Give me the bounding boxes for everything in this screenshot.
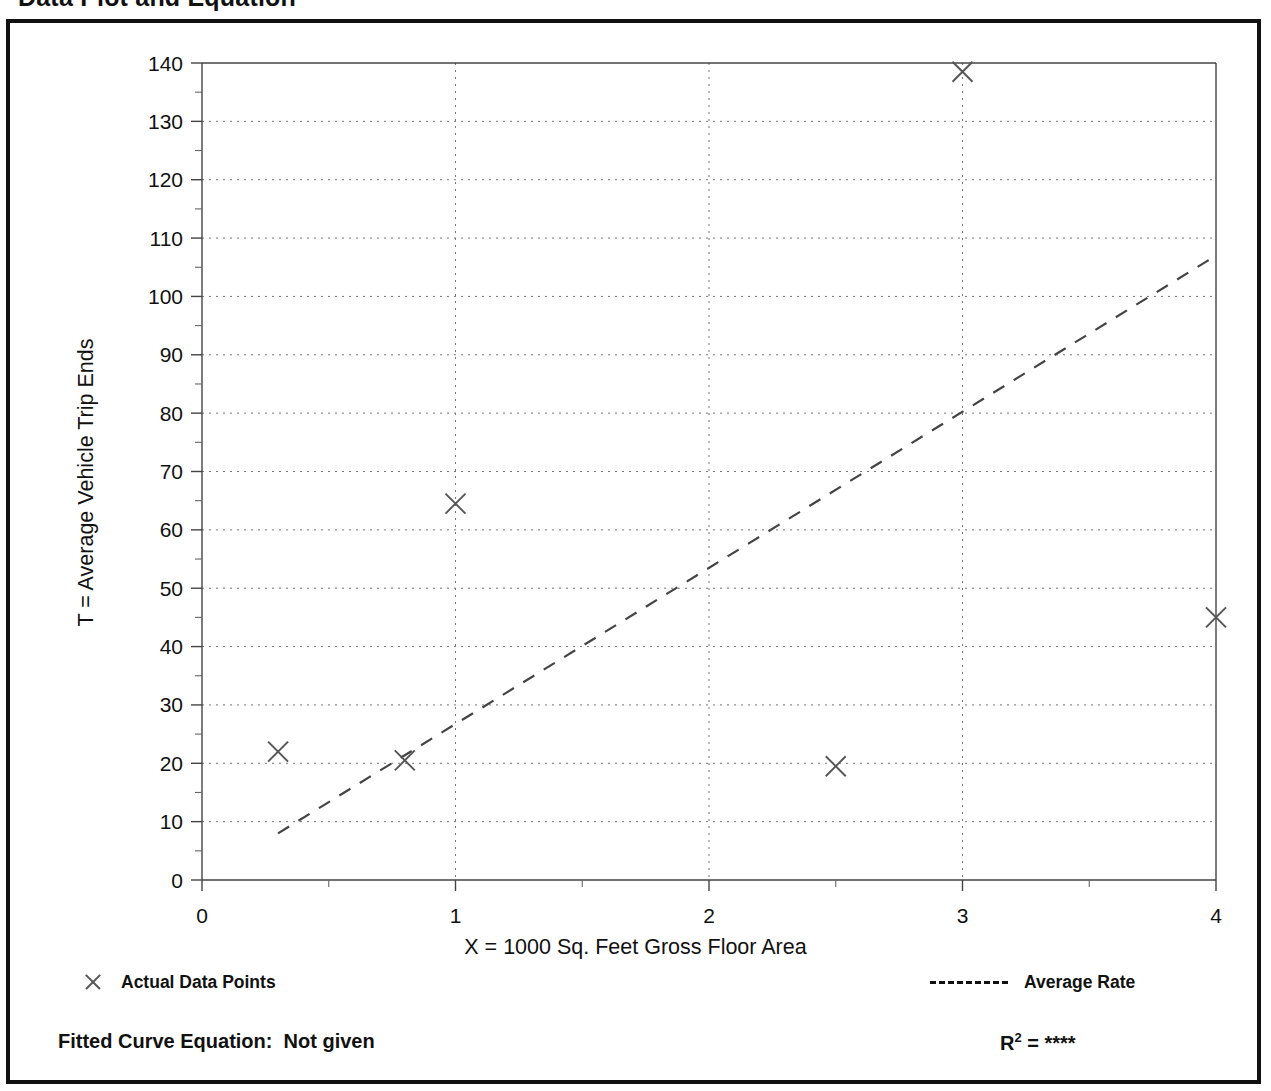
r-squared-value: R2 = **** <box>1000 1030 1076 1055</box>
fitted-curve-equation: Fitted Curve Equation: Not given <box>58 1030 375 1053</box>
x-marker-icon <box>83 972 103 992</box>
r-squared-equals: = <box>1027 1032 1039 1054</box>
legend-label-average-rate: Average Rate <box>1024 972 1135 993</box>
r-squared-symbol: R <box>1000 1032 1014 1054</box>
chart-legend: Actual Data Points Average Rate <box>0 967 1271 997</box>
page-title: Data Plot and Equation <box>18 0 296 12</box>
dashed-line-icon <box>930 981 1008 984</box>
legend-label-data-points: Actual Data Points <box>121 972 276 993</box>
x-axis-title: X = 1000 Sq. Feet Gross Floor Area <box>0 935 1271 960</box>
equation-row: Fitted Curve Equation: Not given R2 = **… <box>0 1030 1271 1060</box>
figure-frame <box>6 19 1261 1084</box>
r-squared-result: **** <box>1045 1032 1076 1054</box>
fitted-curve-equation-value: Not given <box>284 1030 375 1052</box>
legend-item-average-rate: Average Rate <box>930 967 1135 997</box>
legend-item-data-points: Actual Data Points <box>83 967 276 997</box>
fitted-curve-equation-label: Fitted Curve Equation: <box>58 1030 272 1052</box>
r-squared-exponent: 2 <box>1014 1030 1021 1045</box>
y-axis-title: T = Average Vehicle Trip Ends <box>74 273 99 693</box>
